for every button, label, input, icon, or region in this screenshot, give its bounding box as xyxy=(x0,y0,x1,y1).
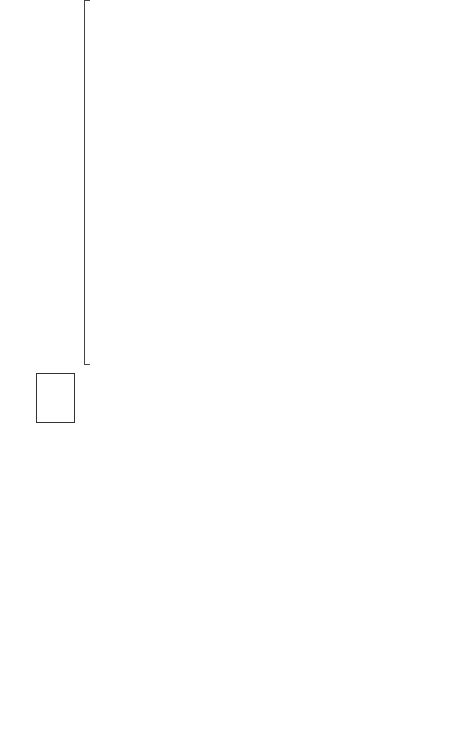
building-level-bracket xyxy=(84,0,85,365)
ppbs-decision-box xyxy=(36,373,75,423)
purchase-order-diagram xyxy=(0,0,458,739)
